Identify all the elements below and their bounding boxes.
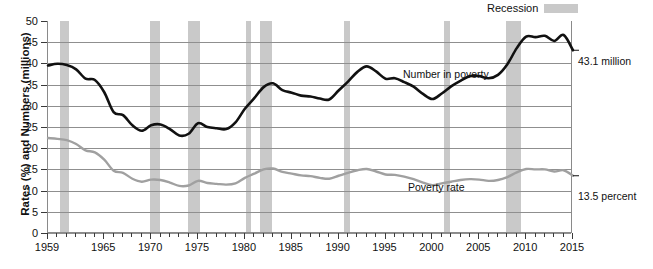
x-tick-2013 [553,233,554,237]
x-tick-2011 [535,233,536,237]
x-tick-2004 [469,233,470,237]
x-tick-1996 [394,233,395,237]
x-tick-1963 [85,233,86,237]
x-tick-1974 [188,233,189,237]
y-label-5: 5 [32,207,38,218]
x-label-1975: 1975 [185,242,209,253]
x-label-1990: 1990 [325,242,349,253]
x-tick-1981 [253,233,254,237]
end-label-poverty-rate: 13.5 percent [578,191,636,202]
y-label-50: 50 [26,16,38,27]
x-tick-1988 [319,233,320,237]
x-tick-2009 [516,233,517,237]
x-tick-2015 [572,233,573,239]
x-tick-1959 [47,233,48,239]
x-tick-1975 [197,233,198,239]
x-tick-1993 [366,233,367,237]
x-tick-1969 [141,233,142,237]
legend-swatch-recession [544,4,578,13]
x-tick-1967 [122,233,123,237]
x-label-1995: 1995 [372,242,396,253]
x-axis-ticks [47,233,572,239]
x-tick-2007 [497,233,498,237]
x-tick-1997 [403,233,404,237]
x-tick-2000 [431,233,432,239]
x-tick-1968 [131,233,132,237]
y-label-35: 35 [26,80,38,91]
x-tick-1992 [356,233,357,237]
x-label-1985: 1985 [279,242,303,253]
x-tick-1980 [244,233,245,239]
x-tick-2014 [563,233,564,237]
x-label-1970: 1970 [138,242,162,253]
x-tick-1971 [160,233,161,237]
x-tick-1973 [178,233,179,237]
x-tick-1984 [281,233,282,237]
x-label-2010: 2010 [513,242,537,253]
x-tick-1972 [169,233,170,237]
x-label-2000: 2000 [419,242,443,253]
x-tick-1978 [225,233,226,237]
annotation-number-in-poverty: Number in poverty [403,69,489,80]
x-tick-1986 [300,233,301,237]
x-tick-1985 [291,233,292,239]
x-tick-2002 [450,233,451,237]
series-line-number-in-poverty [48,35,573,136]
x-tick-1998 [413,233,414,237]
x-tick-1999 [422,233,423,237]
x-tick-1960 [56,233,57,237]
x-tick-1995 [385,233,386,239]
x-tick-2008 [506,233,507,237]
x-tick-1989 [328,233,329,237]
y-label-20: 20 [26,143,38,154]
x-label-2005: 2005 [466,242,490,253]
x-tick-1983 [272,233,273,237]
plot-area: Number in poverty Poverty rate [47,21,572,233]
y-label-25: 25 [26,122,38,133]
x-tick-1990 [338,233,339,239]
y-label-10: 10 [26,186,38,197]
x-tick-1976 [206,233,207,237]
end-label-number-in-poverty: 43.1 million [578,56,631,67]
x-tick-1991 [347,233,348,237]
y-label-45: 45 [26,37,38,48]
x-tick-1977 [216,233,217,237]
x-tick-2005 [478,233,479,239]
x-tick-1965 [103,233,104,239]
x-tick-2003 [460,233,461,237]
y-label-15: 15 [26,164,38,175]
x-tick-1962 [75,233,76,237]
x-tick-1994 [375,233,376,237]
x-tick-1970 [150,233,151,239]
x-tick-2006 [488,233,489,237]
y-label-40: 40 [26,58,38,69]
legend-label-recession: Recession [487,3,538,14]
y-axis-labels: 05101520253035404550 [0,0,38,269]
x-label-1959: 1959 [35,242,59,253]
series-line-poverty-rate [48,138,573,186]
x-tick-1982 [263,233,264,237]
annotation-poverty-rate: Poverty rate [408,182,465,193]
x-tick-1966 [113,233,114,237]
x-tick-2010 [525,233,526,239]
legend: Recession [487,1,578,15]
x-tick-2001 [441,233,442,237]
x-label-2015: 2015 [560,242,584,253]
x-label-1980: 1980 [232,242,256,253]
x-tick-1979 [235,233,236,237]
x-tick-1961 [66,233,67,237]
x-tick-2012 [544,233,545,237]
y-label-30: 30 [26,101,38,112]
series-lines [48,21,573,233]
x-tick-1987 [310,233,311,237]
x-label-1965: 1965 [91,242,115,253]
x-axis-labels: 1959196519701975198019851990199520002005… [0,242,653,258]
x-tick-1964 [94,233,95,237]
y-label-0: 0 [32,228,38,239]
poverty-chart-figure: Recession Rates (%) and Numbers (million… [0,0,653,269]
